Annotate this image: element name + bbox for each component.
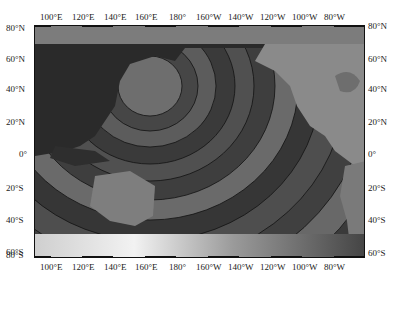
lon-label: 180°: [169, 13, 186, 22]
lat-label: 20°S: [6, 184, 24, 193]
lon-label: 120°W: [260, 263, 286, 272]
lat-label: 40°S: [368, 216, 386, 225]
frame-tick: [334, 25, 365, 27]
frame-tick: [34, 25, 51, 27]
frame-tick: [82, 256, 113, 258]
frame-tick: [82, 25, 113, 27]
lon-label: 140°E: [104, 263, 127, 272]
lat-label: 0°: [19, 150, 27, 159]
frame-tick: [208, 256, 239, 258]
lon-label: 80°W: [324, 263, 345, 272]
lat-label: 20°N: [6, 118, 25, 127]
lat-label: 60°N: [6, 55, 25, 64]
lon-label: 140°E: [104, 13, 127, 22]
frame-tick: [271, 25, 302, 27]
lat-label: 40°S: [6, 216, 24, 225]
lat-label: 80°S: [6, 251, 24, 260]
lat-label: 20°N: [368, 118, 387, 127]
lon-label: 120°W: [260, 13, 286, 22]
lat-label: 40°N: [6, 85, 25, 94]
lon-label: 100°E: [40, 13, 63, 22]
lat-label: 80°N: [6, 24, 25, 33]
lat-label: 60°S: [368, 249, 386, 258]
frame-tick: [34, 256, 51, 258]
lon-label: 160°E: [135, 13, 158, 22]
lat-label: 60°N: [368, 55, 387, 64]
lon-label: 140°W: [228, 13, 254, 22]
lat-label: 40°N: [368, 85, 387, 94]
lat-label: 20°S: [368, 184, 386, 193]
map-canvas: [34, 25, 365, 258]
lon-label: 120°E: [72, 13, 95, 22]
lon-label: 100°W: [292, 263, 318, 272]
lon-label: 160°W: [196, 263, 222, 272]
frame-tick: [271, 256, 302, 258]
lon-label: 100°E: [40, 263, 63, 272]
lon-label: 100°W: [292, 13, 318, 22]
lon-label: 140°W: [228, 263, 254, 272]
lon-label: 160°W: [196, 13, 222, 22]
lat-label: 0°: [368, 150, 376, 159]
lon-label: 120°E: [72, 263, 95, 272]
lon-label: 80°W: [324, 13, 345, 22]
lon-label: 180°: [169, 263, 186, 272]
travel-time-contours: [35, 26, 365, 258]
frame-tick: [208, 25, 239, 27]
lon-label: 160°E: [135, 263, 158, 272]
frame-tick: [334, 256, 365, 258]
frame-tick: [145, 256, 176, 258]
frame-tick: [145, 25, 176, 27]
lat-label: 80°N: [368, 22, 387, 31]
